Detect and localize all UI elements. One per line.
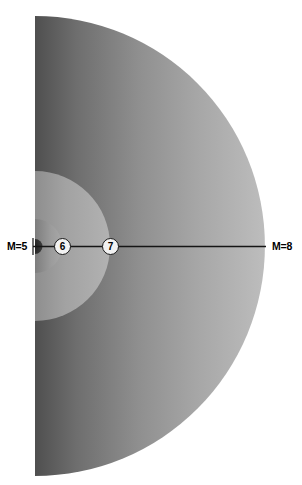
node-marker-6-label: 6 — [60, 241, 66, 251]
node-marker-6: 6 — [54, 238, 71, 255]
node-marker-7-label: 7 — [108, 241, 114, 251]
label-m8: M=8 — [272, 241, 292, 252]
magnitude-semicircle-figure — [0, 0, 302, 485]
node-marker-7: 7 — [102, 238, 119, 255]
label-m5: M=5 — [7, 241, 27, 252]
